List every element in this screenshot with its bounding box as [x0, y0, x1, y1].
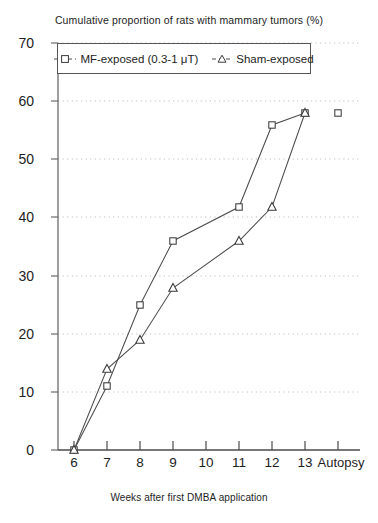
legend-label-sham-exposed: Sham-exposed [236, 53, 313, 65]
xtick-label-12: 12 [264, 456, 279, 470]
ytick-label-50: 50 [0, 152, 34, 166]
legend-entry-mf-exposed: MF-exposed (0.3-1 μT) [54, 53, 198, 65]
gridlines [58, 43, 360, 392]
series-sham-markers [70, 108, 309, 453]
series-mf-exposed [71, 110, 341, 453]
chart-legend: MF-exposed (0.3-1 μT) Sham-exposed [57, 43, 311, 74]
ytick-label-0: 0 [0, 443, 34, 457]
xtick-label-9: 9 [169, 456, 177, 470]
xtick-label-13: 13 [297, 456, 312, 470]
xtick-label-7: 7 [103, 456, 111, 470]
ytick-label-60: 60 [0, 94, 34, 108]
plot-area [0, 0, 378, 523]
xtick-label-11: 11 [232, 456, 246, 470]
legend-entry-sham-exposed: Sham-exposed [212, 53, 313, 65]
autopsy-marker-mf [335, 110, 341, 116]
x-tick-marks [74, 441, 338, 450]
chart-figure: Cumulative proportion of rats with mamma… [0, 0, 378, 523]
x-axis-label: Weeks after first DMBA application [0, 492, 378, 503]
square-marker-icon [54, 53, 76, 65]
ytick-label-20: 20 [0, 327, 34, 341]
series-mf-markers [71, 110, 341, 453]
triangle-marker-icon [212, 53, 232, 65]
legend-label-mf-exposed: MF-exposed (0.3-1 μT) [80, 53, 198, 65]
ytick-label-70: 70 [0, 36, 34, 50]
y-tick-marks [51, 43, 58, 450]
series-sham-exposed [70, 108, 309, 453]
xtick-label-8: 8 [136, 456, 144, 470]
xtick-label-autopsy: Autopsy [318, 456, 365, 469]
ytick-label-40: 40 [0, 210, 34, 224]
xtick-label-6: 6 [70, 456, 78, 470]
ytick-label-30: 30 [0, 269, 34, 283]
xtick-label-10: 10 [198, 456, 213, 470]
ytick-label-10: 10 [0, 385, 34, 399]
